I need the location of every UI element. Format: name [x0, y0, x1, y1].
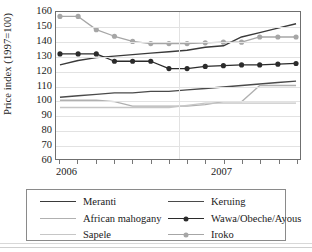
gridline — [56, 57, 300, 58]
y-axis-tick-label: 80 — [42, 125, 53, 135]
line-chart: Price index (1997=100) 16015014013012011… — [0, 0, 312, 184]
legend-label: Keruing — [211, 196, 245, 208]
gridline — [56, 116, 300, 117]
y-axis-tick-label: 110 — [37, 81, 52, 91]
legend-swatch — [165, 196, 207, 208]
x-axis-tick — [242, 160, 243, 164]
legend-line — [40, 201, 76, 202]
data-point-marker — [57, 14, 62, 19]
x-axis-tick — [132, 160, 133, 164]
legend-line — [40, 234, 76, 235]
gridline — [56, 87, 300, 88]
series-lines — [56, 12, 300, 159]
x-axis-tick — [59, 160, 60, 164]
y-axis-tick-label: 140 — [36, 36, 52, 46]
y-axis-tick-label: 60 — [42, 155, 53, 165]
data-point-marker — [130, 59, 135, 64]
legend-swatch — [165, 229, 207, 241]
legend-label: Sapele — [83, 229, 111, 241]
data-point-marker — [76, 51, 81, 56]
x-axis-tick — [96, 160, 97, 164]
y-axis-tick-label: 90 — [42, 110, 53, 120]
legend-item[interactable]: Keruing — [165, 194, 245, 209]
legend-label: Meranti — [83, 196, 116, 208]
gridline — [56, 146, 300, 147]
data-point-marker — [203, 64, 208, 69]
gridline — [56, 101, 300, 102]
plot-area — [55, 11, 301, 160]
data-point-marker — [293, 61, 298, 66]
x-axis-label-2006: 2006 — [56, 166, 77, 177]
y-axis-tick-label: 100 — [36, 95, 52, 105]
legend-line — [168, 201, 204, 202]
legend-swatch — [165, 213, 207, 225]
data-point-marker — [221, 63, 226, 68]
data-point-marker — [293, 34, 298, 39]
chart-page: Price index (1997=100) 16015014013012011… — [0, 0, 312, 252]
y-axis-tick-labels: 16015014013012011010090807060 — [20, 8, 54, 160]
x-axis-label-2007: 2007 — [211, 166, 232, 177]
gridline — [56, 131, 300, 132]
data-point-marker — [184, 66, 189, 71]
x-axis-tick — [77, 160, 78, 164]
legend-item[interactable]: African mahogany — [37, 211, 161, 226]
chart-legend: MerantiKeruingAfrican mahoganyWawa/Obech… — [26, 189, 286, 241]
vertical-gridline — [179, 12, 180, 159]
y-axis-tick-label: 120 — [36, 66, 52, 76]
page-divider-upper — [0, 243, 312, 244]
legend-label: Wawa/Obeche/Ayous — [211, 213, 301, 225]
data-point-marker — [57, 51, 62, 56]
legend-item[interactable]: Iroko — [165, 227, 234, 242]
x-axis-tick — [224, 160, 225, 164]
legend-marker-icon — [184, 216, 189, 221]
data-point-marker — [275, 62, 280, 67]
series-line-keruing — [60, 81, 296, 97]
data-point-marker — [257, 34, 262, 39]
data-point-marker — [148, 59, 153, 64]
legend-item[interactable]: Meranti — [37, 194, 116, 209]
y-axis-title: Price index (1997=100) — [2, 0, 16, 134]
data-point-marker — [257, 62, 262, 67]
data-point-marker — [94, 51, 99, 56]
legend-label: Iroko — [211, 229, 234, 241]
data-point-marker — [76, 14, 81, 19]
legend-line — [40, 218, 76, 219]
x-axis-tick — [279, 160, 280, 164]
data-point-marker — [275, 34, 280, 39]
y-axis-tick-label: 70 — [42, 140, 53, 150]
legend-item[interactable]: Sapele — [37, 227, 111, 242]
y-axis-tick-label: 150 — [36, 21, 52, 31]
gridline — [56, 27, 300, 28]
page-divider — [0, 247, 312, 248]
x-axis-tick — [205, 160, 206, 164]
legend-item[interactable]: Wawa/Obeche/Ayous — [165, 211, 301, 226]
x-axis-tick-labels: 2006 2007 — [0, 166, 312, 182]
legend-swatch — [37, 196, 79, 208]
x-axis-tick — [187, 160, 188, 164]
data-point-marker — [166, 66, 171, 71]
legend-swatch — [37, 213, 79, 225]
x-axis-tick — [260, 160, 261, 164]
x-axis-tick — [114, 160, 115, 164]
gridline — [56, 72, 300, 73]
y-axis-tick-label: 160 — [36, 6, 52, 16]
x-axis-tick — [297, 160, 298, 164]
data-point-marker — [112, 59, 117, 64]
data-point-marker — [239, 62, 244, 67]
legend-marker-icon — [184, 232, 189, 237]
y-axis-tick-label: 130 — [36, 51, 52, 61]
series-line-sapele — [60, 103, 296, 107]
legend-swatch — [37, 229, 79, 241]
legend-label: African mahogany — [83, 213, 161, 225]
x-axis-tick — [151, 160, 152, 164]
data-point-marker — [112, 34, 117, 39]
x-axis-tick — [169, 160, 170, 164]
gridline — [56, 42, 300, 43]
